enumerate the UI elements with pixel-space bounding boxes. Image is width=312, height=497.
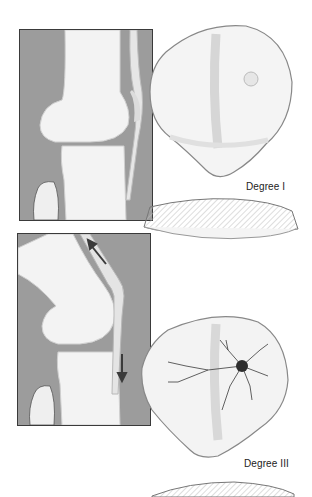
- knee-flexed-illustration: [18, 234, 150, 425]
- knee-extended-panel: [19, 29, 153, 221]
- patella-degree-1: [146, 22, 294, 180]
- patella-section-3: [148, 480, 298, 497]
- patella-section-1: [142, 195, 300, 243]
- lesion-core: [236, 360, 248, 372]
- blister-mark: [244, 72, 258, 86]
- knee-flexed-panel: [17, 233, 151, 426]
- patella-degree-3: [138, 310, 290, 460]
- label-degree-1: Degree I: [246, 181, 285, 192]
- knee-extended-illustration: [20, 30, 152, 220]
- label-degree-3: Degree III: [244, 458, 289, 469]
